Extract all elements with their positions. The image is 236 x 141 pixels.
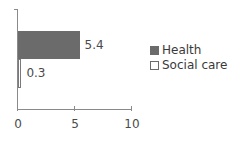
- legend-label-social-care: Social care: [162, 58, 227, 73]
- plot-frame: [17, 9, 132, 110]
- x-tick-10: [131, 106, 132, 111]
- value-label-health: 5.4: [85, 38, 104, 52]
- legend-label-health: Health: [162, 43, 201, 58]
- x-tick-label-10: 10: [124, 117, 139, 131]
- legend: Health Social care: [150, 43, 227, 73]
- legend-item-health: Health: [150, 43, 227, 58]
- legend-swatch-health: [150, 46, 159, 55]
- x-tick-0: [17, 106, 18, 111]
- axis-top-tick: [14, 9, 18, 10]
- x-tick-label-5: 5: [71, 117, 79, 131]
- legend-item-social-care: Social care: [150, 58, 227, 73]
- x-tick-5: [74, 106, 75, 111]
- value-label-social-care: 0.3: [26, 66, 45, 80]
- legend-swatch-social-care: [150, 61, 159, 70]
- bar-social-care: [18, 59, 21, 88]
- bar-health: [18, 31, 80, 59]
- x-tick-label-0: 0: [14, 117, 22, 131]
